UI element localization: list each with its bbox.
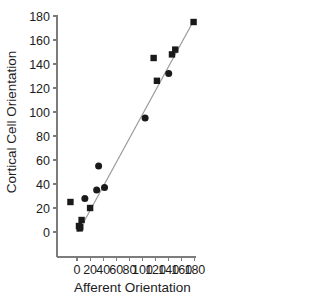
y-tick-label: 100 bbox=[29, 106, 50, 120]
y-tick-label: 0 bbox=[43, 226, 50, 240]
data-point-circle bbox=[95, 163, 102, 170]
x-tick-label: 20 bbox=[83, 263, 97, 277]
data-point-circle bbox=[165, 70, 172, 77]
data-point-square bbox=[154, 78, 160, 84]
y-axis-title: Cortical Cell Orientation bbox=[4, 51, 19, 194]
y-tick-label: 180 bbox=[29, 10, 50, 24]
scatter-plot-figure: 020406080100120140160180 020406080100120… bbox=[0, 0, 321, 298]
data-point-square bbox=[172, 46, 178, 52]
data-point-square bbox=[77, 224, 83, 230]
y-axis-tick-labels: 020406080100120140160180 bbox=[29, 10, 50, 240]
data-group bbox=[67, 19, 197, 232]
x-axis-tick-labels: 020406080100120140160180 bbox=[74, 263, 206, 277]
x-axis-ticks bbox=[77, 257, 195, 261]
y-tick-label: 20 bbox=[36, 202, 50, 216]
data-point-square bbox=[78, 217, 84, 223]
y-tick-label: 160 bbox=[29, 34, 50, 48]
data-point-circle bbox=[81, 195, 88, 202]
y-tick-label: 120 bbox=[29, 82, 50, 96]
data-point-circle bbox=[142, 115, 149, 122]
y-tick-label: 60 bbox=[36, 154, 50, 168]
x-axis-title: Afferent Orientation bbox=[74, 280, 191, 295]
plot-canvas: 020406080100120140160180 020406080100120… bbox=[0, 0, 321, 298]
data-point-circle bbox=[93, 187, 100, 194]
x-tick-label: 60 bbox=[109, 263, 123, 277]
y-tick-label: 40 bbox=[36, 178, 50, 192]
data-point-square bbox=[67, 199, 73, 205]
axes-group: 020406080100120140160180 020406080100120… bbox=[29, 10, 205, 278]
data-point-square bbox=[150, 55, 156, 61]
y-axis-ticks bbox=[53, 16, 57, 232]
circle-data-markers bbox=[81, 70, 172, 202]
data-point-square bbox=[87, 205, 93, 211]
y-tick-label: 80 bbox=[36, 130, 50, 144]
x-tick-label: 180 bbox=[184, 263, 205, 277]
data-point-square bbox=[190, 19, 196, 25]
data-point-circle bbox=[101, 184, 108, 191]
x-tick-label: 40 bbox=[96, 263, 110, 277]
y-tick-label: 140 bbox=[29, 58, 50, 72]
x-tick-label: 0 bbox=[74, 263, 81, 277]
